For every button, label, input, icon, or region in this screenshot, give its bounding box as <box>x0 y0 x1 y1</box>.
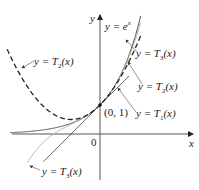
y-axis-label: y <box>90 13 95 24</box>
t3-bottom-leader <box>30 166 40 170</box>
origin-label: 0 <box>91 137 97 148</box>
x-axis-label: x <box>189 138 194 149</box>
t1-line <box>43 76 129 162</box>
point-label: (0, 1) <box>104 107 128 118</box>
t3-curve <box>28 23 141 163</box>
t2-left-leader <box>22 61 34 68</box>
point-0-1 <box>98 103 102 107</box>
t2-right-label: y = T2(x) <box>138 81 178 95</box>
t1-label: y = T1(x) <box>136 108 176 122</box>
t3-bottom-label: y = T3(x) <box>42 166 82 180</box>
t3-top-label: y = T3(x) <box>136 48 176 62</box>
exp-label: y = ex <box>105 20 131 32</box>
t2-left-label: y = T2(x) <box>34 56 74 70</box>
